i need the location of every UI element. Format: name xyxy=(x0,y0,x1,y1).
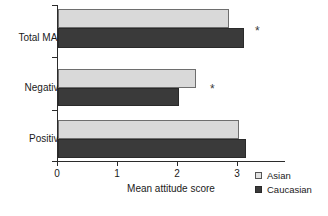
bar-negative-asian xyxy=(58,69,196,88)
y-axis-tick-2 xyxy=(52,110,58,111)
bar-positive-asian xyxy=(58,120,239,139)
x-axis-label-2: 2 xyxy=(167,168,187,180)
x-axis-title: Mean attitude score xyxy=(57,183,285,194)
y-axis-tick-top xyxy=(52,5,58,6)
significance-star-negative: * xyxy=(210,84,215,94)
x-axis-tick-1 xyxy=(117,161,118,166)
bar-positive-caucasian xyxy=(58,139,246,158)
legend-label-asian: Asian xyxy=(267,170,291,181)
legend-item-caucasian: Caucasian xyxy=(255,182,312,196)
chart-legend: Asian Caucasian xyxy=(255,168,312,196)
x-axis-tick-2 xyxy=(177,161,178,166)
x-axis-tick-3 xyxy=(237,161,238,166)
legend-swatch-caucasian-icon xyxy=(255,186,262,193)
legend-label-caucasian: Caucasian xyxy=(267,184,312,195)
bar-total-mas-asian xyxy=(58,9,229,28)
x-axis-label-3: 3 xyxy=(227,168,247,180)
plot-area: Total MAS Negative Positive * * 0 1 2 3 … xyxy=(0,0,328,216)
bar-total-mas-caucasian xyxy=(58,28,244,48)
legend-swatch-asian-icon xyxy=(255,172,262,179)
bar-negative-caucasian xyxy=(58,88,179,106)
horizontal-bar-chart: Total MAS Negative Positive * * 0 1 2 3 … xyxy=(0,0,328,216)
x-axis-line xyxy=(57,161,285,162)
significance-star-total-mas: * xyxy=(255,26,260,36)
x-axis-tick-0 xyxy=(57,161,58,166)
x-axis-label-1: 1 xyxy=(107,168,127,180)
y-axis-tick-1 xyxy=(52,57,58,58)
x-axis-label-0: 0 xyxy=(47,168,67,180)
legend-item-asian: Asian xyxy=(255,168,312,182)
